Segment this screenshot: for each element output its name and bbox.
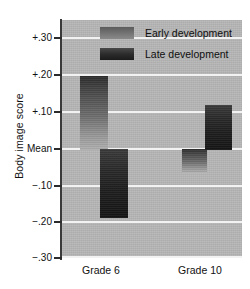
- y-tick-label-plus-10: +.10: [0, 106, 52, 117]
- y-tick-label-minus-30: −.30: [0, 252, 52, 263]
- bar-grade10-late-development: [205, 105, 232, 150]
- legend-item-early-development: Early development: [100, 26, 232, 40]
- y-tick-label-mean: Mean: [0, 143, 52, 154]
- x-axis-label-grade-10: Grade 10: [158, 264, 242, 276]
- bar-grade6-early-development: [80, 76, 108, 150]
- y-tick-minus-30: [54, 257, 62, 259]
- y-tick-label-plus-30: +.30: [0, 32, 52, 43]
- y-tick-plus-30: [54, 37, 62, 39]
- legend-swatch-late-icon: [100, 48, 134, 60]
- y-tick-label-minus-20: −.20: [0, 216, 52, 227]
- body-image-score-bar-chart: Body image score Ear: [0, 0, 250, 289]
- legend-label-early-development: Early development: [145, 27, 232, 39]
- bar-grade6-late-development: [100, 149, 128, 218]
- gridline-minus-20: [62, 221, 242, 223]
- y-tick-label-plus-20: +.20: [0, 69, 52, 80]
- gridline-minus-10: [62, 185, 242, 187]
- y-tick-mean: [54, 148, 62, 150]
- y-tick-minus-20: [54, 221, 62, 223]
- legend-label-late-development: Late development: [145, 48, 228, 60]
- y-tick-label-minus-10: −.10: [0, 180, 52, 191]
- bar-texture: [100, 149, 128, 218]
- legend-item-late-development: Late development: [100, 47, 228, 61]
- y-axis-spine: [60, 19, 62, 260]
- y-tick-plus-20: [54, 74, 62, 76]
- legend-swatch-early-icon: [100, 27, 134, 39]
- legend: Early development Late development: [62, 20, 242, 68]
- bar-texture: [205, 105, 232, 150]
- y-tick-plus-10: [54, 111, 62, 113]
- bar-texture: [80, 76, 108, 150]
- bar-texture: [182, 149, 207, 173]
- plot-area: Early development Late development: [62, 20, 242, 258]
- x-axis-label-grade-6: Grade 6: [62, 264, 140, 276]
- y-tick-minus-10: [54, 185, 62, 187]
- gridline-minus-30: [62, 256, 242, 258]
- bar-grade10-early-development: [182, 149, 207, 173]
